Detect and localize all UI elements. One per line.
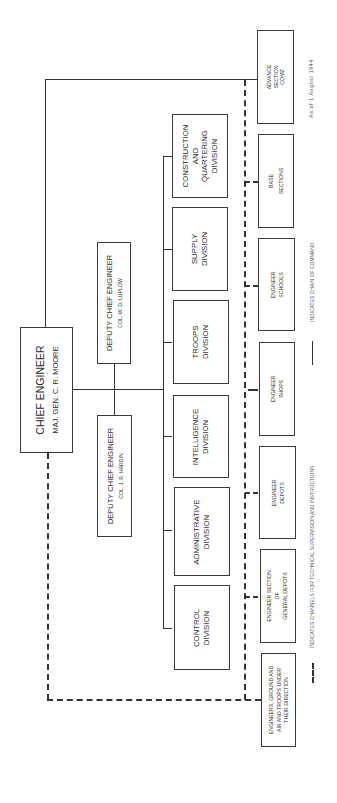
chief-technical-down — [47, 453, 49, 700]
engineer-schools-box: ENGINEER SCHOOLS — [258, 238, 295, 331]
division-label: CONTROL — [192, 608, 202, 646]
administrative-division-box: ADMINISTRATIVE DIVISION — [174, 487, 230, 576]
division-label: ADMINISTRATIVE — [192, 499, 202, 564]
date-note: As of 1 August 1944 — [308, 59, 314, 118]
base-sections-box: BASE SECTIONS — [258, 134, 294, 228]
engineer-shops-box: ENGINEER SHOPS — [259, 342, 295, 436]
unit-label: AIR AND TROOPS UNDER — [275, 666, 283, 735]
stub-administrative — [163, 530, 172, 531]
chief-engineer-box: CHIEF ENGINEER MAJ. GEN. C. R. MOORE — [20, 327, 73, 453]
division-label: SUPPLY — [190, 232, 200, 266]
division-label: DIVISION — [201, 325, 211, 359]
technical-channel-bottom — [47, 699, 261, 701]
unit-label: ENGINEER — [269, 479, 277, 506]
division-label: DIVISION — [200, 232, 210, 266]
unit-label: GENERAL DEPOTS — [282, 570, 290, 622]
unit-label: SCHOOLS — [277, 271, 285, 298]
stub-control — [163, 628, 172, 629]
division-label: DIVISION — [202, 608, 212, 646]
control-division-box: CONTROL DIVISION — [174, 585, 230, 670]
deputy-name: COL. W. D. LUPLOW — [117, 255, 124, 351]
unit-label: SECTION — [272, 65, 279, 90]
unit-label: DEPOTS — [278, 479, 286, 506]
chief-to-advance-vertical — [45, 79, 46, 327]
legend-solid-label: INDICATES CHAIN OF COMMAND — [309, 243, 315, 322]
unit-label: ADVANCE — [266, 65, 273, 90]
unit-label: SHOPS — [277, 375, 285, 402]
chief-name: MAJ. GEN. C. R. MOORE — [50, 345, 59, 434]
deputy-title: DEPUTY CHIEF ENGINEER — [105, 428, 114, 524]
unit-label: ENGINEER SECTION — [266, 570, 274, 622]
engineer-section-general-depots-box: ENGINEER SECTION OF GENERAL DEPOTS — [260, 549, 296, 643]
stub-general-depots — [245, 596, 258, 598]
division-label: TROOPS — [191, 325, 201, 359]
deputies-connector — [114, 364, 115, 415]
technical-channel-vertical — [244, 80, 246, 700]
unit-label: BASE — [266, 168, 276, 195]
advance-section-comz-box: ADVANCE SECTION COMZ — [257, 30, 294, 124]
unit-label: ENGINEER — [268, 271, 276, 298]
stub-base-sections — [245, 181, 258, 183]
deputy-title: DEPUTY CHIEF ENGINEER — [105, 255, 114, 351]
engineers-ground-air-troops-box: ENGINEERS, GROUND AND AIR AND TROOPS UND… — [261, 653, 296, 747]
division-label: DIVISION — [202, 499, 212, 564]
stub-intelligence — [163, 436, 172, 437]
stub-construction — [163, 156, 172, 157]
division-label: AND — [190, 125, 200, 188]
stub-engineer-depots — [245, 492, 258, 494]
stub-troops — [163, 342, 172, 343]
construction-quartering-division-box: CONSTRUCTION AND QUARTERING DIVISION — [172, 114, 228, 198]
unit-label: OF — [274, 570, 282, 622]
legend-solid-line-sample — [312, 341, 313, 365]
legend-dashed-label: INDICATES CHANNELS FOR TECHNICAL SUPERVI… — [309, 466, 315, 648]
intelligence-division-box: INTELLIGENCE DIVISION — [173, 395, 229, 478]
chief-title: CHIEF ENGINEER — [33, 345, 46, 434]
stub-supply — [163, 249, 172, 250]
deputy-chief-hardin-box: DEPUTY CHIEF ENGINEER COL. J. R. HARDIN — [97, 415, 132, 537]
legend-dashed-line-sample — [312, 663, 314, 683]
deputy-chief-luplow-box: DEPUTY CHIEF ENGINEER COL. W. D. LUPLOW — [97, 242, 131, 364]
chief-to-divisions-horizontal — [73, 389, 163, 390]
unit-label: ENGINEER — [269, 375, 277, 402]
engineer-depots-box: ENGINEER DEPOTS — [259, 446, 296, 539]
stub-engineer-shops — [248, 389, 258, 391]
division-label: DIVISION — [210, 125, 220, 188]
unit-label: ENGINEERS, GROUND AND — [267, 666, 275, 735]
division-label: DIVISION — [201, 408, 211, 464]
division-label: CONSTRUCTION — [181, 125, 191, 188]
division-label: QUARTERING — [200, 125, 210, 188]
unit-label: COMZ — [279, 65, 286, 90]
supply-division-box: SUPPLY DIVISION — [172, 207, 228, 291]
unit-label: SECTIONS — [276, 168, 286, 195]
unit-label: THEIR DIRECTION — [282, 666, 290, 735]
stub-engineer-schools — [245, 285, 258, 287]
chief-to-advance-horizontal — [45, 79, 257, 80]
divisions-spine — [163, 156, 164, 629]
division-label: INTELLIGENCE — [191, 408, 201, 464]
deputy-name: COL. J. R. HARDIN — [117, 428, 124, 524]
troops-division-box: TROOPS DIVISION — [173, 300, 229, 384]
